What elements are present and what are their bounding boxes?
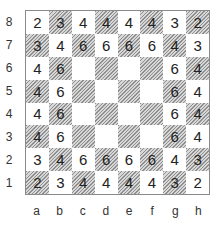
square-a5: 4 (26, 80, 49, 103)
square-e2: 6 (118, 148, 141, 171)
square-b7: 4 (49, 34, 72, 57)
square-c4 (72, 103, 95, 126)
square-b4: 6 (49, 103, 72, 126)
square-d1: 4 (95, 171, 118, 194)
square-d7: 6 (95, 34, 118, 57)
square-e5 (118, 80, 141, 103)
file-label: a (25, 200, 48, 222)
square-a6: 4 (26, 57, 49, 80)
square-d3 (95, 125, 118, 148)
square-c3 (72, 125, 95, 148)
square-f4 (140, 103, 163, 126)
square-c5 (72, 80, 95, 103)
square-f1: 4 (140, 171, 163, 194)
square-h5: 4 (186, 80, 209, 103)
rank-label: 4 (0, 103, 18, 126)
square-d8: 4 (95, 11, 118, 34)
file-label: e (118, 200, 141, 222)
square-b3: 6 (49, 125, 72, 148)
rank-labels: 8 7 6 5 4 3 2 1 (0, 10, 18, 195)
square-b5: 6 (49, 80, 72, 103)
square-d6 (95, 57, 118, 80)
square-g6: 6 (163, 57, 186, 80)
square-a3: 4 (26, 125, 49, 148)
file-label: c (71, 200, 94, 222)
rank-label: 2 (0, 149, 18, 172)
square-h1: 2 (186, 171, 209, 194)
square-e7: 6 (118, 34, 141, 57)
rank-label: 8 (0, 10, 18, 33)
file-labels: a b c d e f g h (25, 200, 210, 222)
square-f5 (140, 80, 163, 103)
square-g4: 6 (163, 103, 186, 126)
square-f3 (140, 125, 163, 148)
square-f2: 6 (140, 148, 163, 171)
square-g7: 4 (163, 34, 186, 57)
square-b2: 4 (49, 148, 72, 171)
square-h2: 3 (186, 148, 209, 171)
square-a2: 3 (26, 148, 49, 171)
square-b6: 6 (49, 57, 72, 80)
square-d2: 6 (95, 148, 118, 171)
square-f8: 4 (140, 11, 163, 34)
rank-label: 5 (0, 79, 18, 102)
rank-label: 1 (0, 172, 18, 195)
file-label: h (187, 200, 210, 222)
square-c6 (72, 57, 95, 80)
square-a7: 3 (26, 34, 49, 57)
square-f6 (140, 57, 163, 80)
square-e3 (118, 125, 141, 148)
square-e4 (118, 103, 141, 126)
chessboard: 2344443234666643466446644664466434666643… (25, 10, 210, 195)
file-label: g (164, 200, 187, 222)
square-h4: 4 (186, 103, 209, 126)
square-g5: 6 (163, 80, 186, 103)
square-d4 (95, 103, 118, 126)
square-f7: 6 (140, 34, 163, 57)
square-g8: 3 (163, 11, 186, 34)
square-c8: 4 (72, 11, 95, 34)
rank-label: 3 (0, 126, 18, 149)
square-g1: 3 (163, 171, 186, 194)
rank-label: 6 (0, 56, 18, 79)
square-a1: 2 (26, 171, 49, 194)
square-h8: 2 (186, 11, 209, 34)
square-g2: 4 (163, 148, 186, 171)
square-b1: 3 (49, 171, 72, 194)
square-e1: 4 (118, 171, 141, 194)
file-label: b (48, 200, 71, 222)
square-c1: 4 (72, 171, 95, 194)
square-c2: 6 (72, 148, 95, 171)
square-e6 (118, 57, 141, 80)
file-label: d (94, 200, 117, 222)
rank-label: 7 (0, 33, 18, 56)
square-d5 (95, 80, 118, 103)
square-b8: 3 (49, 11, 72, 34)
square-h3: 4 (186, 125, 209, 148)
square-a4: 4 (26, 103, 49, 126)
square-h7: 3 (186, 34, 209, 57)
square-g3: 6 (163, 125, 186, 148)
square-a8: 2 (26, 11, 49, 34)
square-h6: 4 (186, 57, 209, 80)
file-label: f (141, 200, 164, 222)
square-e8: 4 (118, 11, 141, 34)
square-c7: 6 (72, 34, 95, 57)
